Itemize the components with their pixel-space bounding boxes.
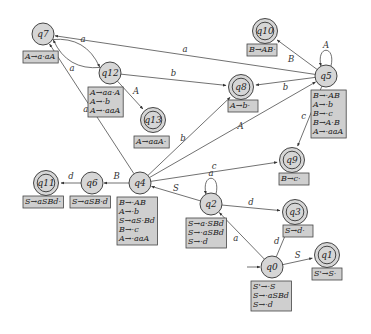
state-label: q12: [101, 68, 118, 78]
item-set-q4: B→·ABA→·bS→aS·BdB→·cA→·aaA: [117, 197, 157, 245]
lr-item: A→a·aA: [24, 52, 56, 61]
transition-q6-q11: d: [61, 171, 81, 183]
state-label: q3: [289, 207, 301, 217]
state-q11: q11S→aSBd·: [23, 171, 63, 209]
transition-q12-q8: b: [121, 68, 226, 86]
state-q3: q3S→d·: [283, 200, 314, 238]
lr-item: S→aSBd·: [25, 197, 61, 206]
state-label: q5: [320, 71, 332, 81]
transition-symbol: S: [173, 183, 179, 193]
state-label: q0: [266, 262, 278, 272]
transition-symbol: d: [68, 171, 74, 181]
lr-item: A→·aaA: [312, 127, 344, 136]
transition-symbol: a: [182, 44, 187, 54]
lr-item: B→·c: [118, 225, 139, 234]
lr-item: S→·d: [253, 300, 273, 309]
lr-item: B→·c: [312, 109, 333, 118]
item-set-q7: A→a·aA: [23, 51, 58, 63]
lr-item: S→·aSBd: [188, 228, 224, 237]
state-label: q7: [37, 29, 49, 39]
transition-symbol: a: [83, 104, 88, 114]
state-label: q6: [86, 178, 98, 188]
state-label: q8: [235, 82, 247, 92]
lr-item: B→A·B: [312, 118, 340, 127]
transition-q5-q10: B: [277, 40, 317, 70]
transition-symbol: B: [287, 54, 294, 64]
lr-item: A→·b: [312, 100, 333, 109]
state-q2: q2S→a·SBdS→·aSBdS→·d: [186, 193, 226, 248]
transition-symbol: d: [248, 197, 254, 207]
transition-symbol: d: [274, 236, 280, 246]
transition-q5-q5: A: [320, 40, 332, 66]
lr-item: S→·d: [188, 237, 208, 246]
item-set-q10: B→AB·: [247, 44, 277, 56]
transition-symbol: A: [236, 121, 243, 131]
item-set-q12: A→aa·AA→·bA→·aaA: [88, 87, 123, 117]
transition-symbol: c: [301, 111, 306, 121]
state-label: q11: [37, 178, 54, 188]
state-label: q2: [205, 199, 217, 209]
lr-item: S→aS·Bd: [119, 216, 155, 225]
lr-item: B→c·: [280, 174, 301, 183]
transition-q0-q1: S: [283, 250, 313, 264]
state-q7: q7A→a·aA: [23, 23, 58, 63]
lr-item: B→·AB: [118, 198, 146, 207]
transition-symbol: b: [171, 68, 176, 78]
state-q12: q12A→aa·AA→·bA→·aaA: [88, 62, 123, 117]
lr-item: A→aa·A: [89, 88, 121, 97]
transition-symbol: b: [180, 133, 185, 143]
lr-item: S→d·: [285, 226, 305, 235]
state-q6: q6S→aSB·d: [70, 172, 110, 208]
item-set-q13: A→aaA·: [134, 136, 169, 148]
transition-symbol: S: [295, 250, 301, 260]
item-set-q6: S→aSB·d: [70, 196, 110, 208]
item-set-q9: B→c·: [279, 173, 309, 185]
transition-symbol: a: [70, 63, 75, 73]
lr-item: B→·AB: [312, 91, 340, 100]
lr-item: S→aSB·d: [72, 197, 108, 206]
item-set-q0: S'→·SS→·aSBdS→·d: [251, 281, 291, 311]
transition-symbol: B: [112, 171, 119, 181]
transition-symbol: a: [80, 34, 85, 44]
lr-item: S→a·SBd: [188, 219, 224, 228]
lr-item: S'→·S: [253, 282, 276, 291]
transition-q4-q6: B: [104, 171, 129, 183]
item-set-q5: B→·ABA→·bB→·cB→A·BA→·aaA: [311, 90, 346, 138]
state-q10: q10B→AB·: [247, 19, 278, 57]
lr-item: A→·b: [118, 207, 139, 216]
lr-item: A→b·: [229, 101, 250, 110]
lr-automaton-diagram: SadadSBAbcadABbcaaabA q0S'→·SS→·aSBdS→·d…: [0, 0, 371, 334]
lr-item: B→AB·: [248, 45, 276, 54]
transition-q5-q8: b: [256, 77, 315, 92]
state-q9: q9B→c·: [279, 148, 309, 186]
state-q13: q13A→aaA·: [134, 108, 169, 149]
state-q1: q1S'→S·: [312, 243, 342, 281]
lr-item: A→·aaA: [89, 106, 121, 115]
transition-q2-q3: d: [222, 197, 280, 211]
transition-symbol: a: [233, 233, 238, 243]
lr-item: S'→S·: [314, 269, 336, 278]
state-label: q4: [134, 178, 146, 188]
state-label: q13: [144, 115, 161, 125]
lr-item: A→aaA·: [135, 137, 166, 146]
item-set-q2: S→a·SBdS→·aSBdS→·d: [186, 218, 226, 248]
item-set-q3: S→d·: [283, 225, 313, 237]
state-label: q1: [321, 250, 333, 260]
lr-item: A→·aaA: [118, 234, 150, 243]
item-set-q1: S'→S·: [312, 268, 342, 280]
item-set-q11: S→aSBd·: [23, 196, 63, 208]
state-q8: q8A→b·: [228, 75, 258, 113]
transition-symbol: c: [212, 161, 217, 171]
lr-item: S→·aSBd: [253, 291, 289, 300]
transition-q2-q4: S: [152, 183, 201, 201]
transition-symbol: A: [322, 40, 329, 50]
state-label: q10: [256, 26, 273, 36]
lr-item: A→·b: [89, 97, 110, 106]
transition-symbol: A: [132, 86, 139, 96]
state-label: q9: [286, 155, 298, 165]
transition-q4-q9: c: [151, 161, 277, 182]
item-set-q8: A→b·: [228, 100, 258, 112]
transition-symbol: b: [283, 82, 288, 92]
state-q5: q5B→·ABA→·bB→·cB→A·BA→·aaA: [311, 65, 346, 138]
